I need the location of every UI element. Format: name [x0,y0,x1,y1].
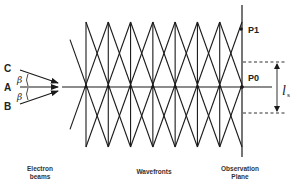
wavefront-crossing-point [85,86,88,89]
beam-label-b: B [4,101,11,112]
beam-arrow-c [20,70,58,83]
point-p1-marker [239,27,243,31]
caption-wavefronts: Wavefronts [136,168,172,175]
angle-arc-upper [27,74,29,86]
wavefront-crossing-point [196,86,199,89]
point-p1-label: P1 [248,25,259,35]
angle-arc-lower [27,88,29,100]
wavefront-crossing-point [151,86,154,89]
angle-label-upper: β [16,75,22,85]
wavefront-diagonal-falling [70,40,108,147]
angle-label-lower: β [16,92,22,102]
fringe-spacing-subscript: s [287,92,290,98]
caption-observation-line1: Observation [221,165,259,172]
wavefront-crossing-point [107,86,110,89]
wavefront-crossing-point [218,86,221,89]
caption-observation-line2: Plane [231,173,249,180]
beam-label-c: C [4,63,11,74]
point-p0-marker [240,85,244,89]
wavefront-diagonal-rising [70,22,108,129]
wavefront-crossing-point [129,86,132,89]
caption-electron-beams-line2: beams [30,173,51,180]
beam-arrow-b [20,91,58,104]
point-p0-label: P0 [248,73,259,83]
wavefront-crossing-point [174,86,177,89]
wavefront-pattern [70,22,243,147]
beam-label-a: A [4,82,11,93]
fringe-spacing-symbol: l [282,83,286,98]
caption-electron-beams-line1: Electron [27,165,53,172]
interference-diagram: C A B β β P1 P0 l s Electron beams Wavef… [0,0,297,189]
